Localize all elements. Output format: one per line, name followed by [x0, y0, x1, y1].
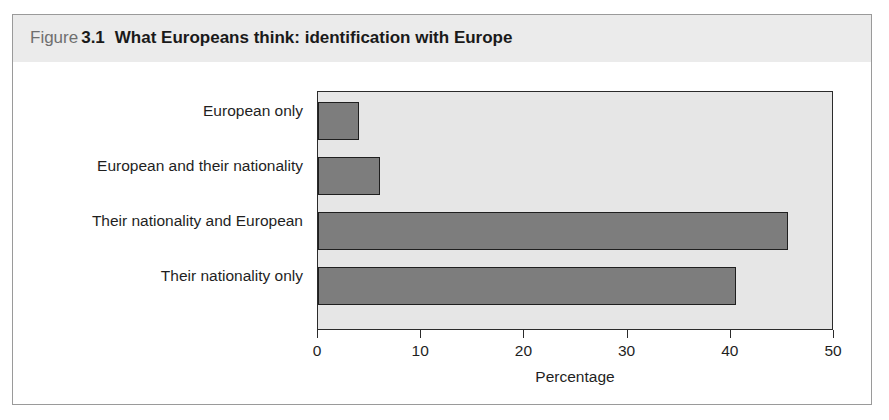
figure-header-band: Figure3.1What Europeans think: identific…	[13, 15, 871, 63]
bar-european-and-their-nationality[interactable]	[318, 157, 380, 195]
x-tick-label: 20	[493, 342, 553, 360]
x-tick-label: 50	[803, 342, 863, 360]
plot-area	[317, 91, 833, 330]
category-label-their-nationality-and-european: Their nationality and European	[12, 212, 303, 230]
figure-caption: Figure3.1What Europeans think: identific…	[30, 27, 512, 49]
x-tick-label: 0	[287, 342, 347, 360]
bar-their-nationality-only[interactable]	[318, 267, 736, 305]
bar-their-nationality-and-european[interactable]	[318, 212, 788, 250]
x-tick-label: 40	[700, 342, 760, 360]
x-tick-mark	[627, 330, 628, 338]
x-tick-label: 10	[390, 342, 450, 360]
x-tick-mark	[317, 330, 318, 338]
figure-title: What Europeans think: identification wit…	[115, 28, 513, 47]
bar-european-only[interactable]	[318, 102, 359, 140]
figure-frame: Figure3.1What Europeans think: identific…	[12, 14, 872, 405]
x-tick-mark	[730, 330, 731, 338]
x-tick-mark	[420, 330, 421, 338]
category-label-european-and-their-nationality: European and their nationality	[12, 157, 303, 175]
x-axis-title: Percentage	[317, 368, 833, 386]
x-tick-label: 30	[597, 342, 657, 360]
figure-label-word: Figure	[30, 28, 78, 47]
category-label-their-nationality-only: Their nationality only	[12, 267, 303, 285]
x-tick-mark	[523, 330, 524, 338]
chart-region: European only European and their nationa…	[13, 63, 871, 404]
figure-number: 3.1	[81, 28, 105, 47]
x-tick-mark	[833, 330, 834, 338]
category-label-european-only: European only	[12, 102, 303, 120]
